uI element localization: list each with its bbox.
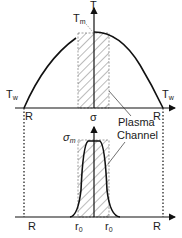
- tw-left-label: Tw: [6, 88, 19, 101]
- tm-label: Tm: [73, 12, 86, 25]
- temperature-curve-left: [24, 38, 76, 108]
- tw-right-label: Tw: [162, 88, 175, 101]
- t-axis-label: T: [90, 0, 97, 11]
- r0-right-label: r0: [105, 220, 113, 233]
- sigma-axis-label: σ: [90, 111, 97, 123]
- svg-text:Plasma: Plasma: [118, 116, 156, 128]
- annotation-leader-bottom: [108, 142, 125, 164]
- svg-text:Channel: Channel: [117, 129, 158, 141]
- plasma-channel-diagram: T Tm Tw Tw R R Plasma Channel σ σm R R r…: [0, 0, 182, 238]
- r0-left-label: r0: [75, 220, 83, 233]
- tm-leader: [86, 24, 92, 31]
- plasma-channel-annotation: Plasma Channel: [108, 91, 158, 164]
- bottom-r-left-label: R: [28, 220, 36, 232]
- top-r-left-label: R: [25, 110, 33, 122]
- bottom-r-right-label: R: [153, 220, 161, 232]
- sigma-m-label: σm: [63, 131, 76, 144]
- annotation-leader-top: [109, 91, 131, 116]
- temperature-plot: T Tm Tw Tw R R: [6, 0, 175, 122]
